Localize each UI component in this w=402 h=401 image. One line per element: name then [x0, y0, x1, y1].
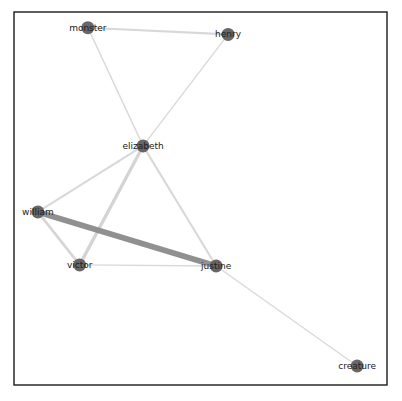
edges-group — [38, 28, 357, 366]
edge-william-justine — [38, 212, 216, 266]
plot-frame — [14, 12, 387, 385]
node-label-victor: victor — [67, 260, 93, 270]
edge-henry-elizabeth — [143, 34, 228, 146]
node-label-william: william — [22, 207, 54, 217]
edge-elizabeth-victor — [80, 146, 143, 265]
node-label-henry: henry — [215, 29, 242, 39]
edge-monster-elizabeth — [88, 28, 143, 146]
labels-group: monsterhenryelizabethwilliamvictorjustin… — [22, 23, 376, 371]
node-label-elizabeth: elizabeth — [122, 141, 163, 151]
node-label-monster: monster — [69, 23, 107, 33]
network-graph: monsterhenryelizabethwilliamvictorjustin… — [0, 0, 402, 401]
edge-victor-justine — [80, 265, 217, 266]
edge-justine-creature — [216, 266, 357, 366]
node-label-creature: creature — [338, 361, 376, 371]
node-label-justine: justine — [200, 261, 232, 271]
edge-monster-henry — [88, 28, 228, 35]
